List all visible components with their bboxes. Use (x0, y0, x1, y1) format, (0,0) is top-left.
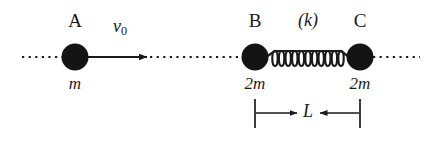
dimension-label: L (298, 102, 318, 120)
body-B-name-label: B (249, 11, 262, 30)
body-C-ball (347, 44, 374, 71)
physics-diagram: A B C m 2m 2m v0 (k) L (0, 0, 442, 141)
spring-helix (272, 51, 343, 66)
body-A-name-label: A (68, 11, 82, 30)
body-A-mass-label: m (69, 75, 81, 92)
spring-coil (266, 51, 349, 66)
velocity-symbol: v (113, 16, 121, 36)
body-C-name-label: C (354, 11, 367, 30)
diagram-canvas (0, 0, 442, 141)
spring-constant-label: (k) (298, 11, 318, 29)
body-A-ball (62, 44, 89, 71)
velocity-label: v0 (113, 17, 127, 38)
body-C-mass-label: 2m (350, 75, 371, 92)
body-B-mass-label: 2m (245, 75, 266, 92)
body-B-ball (242, 44, 269, 71)
velocity-subscript: 0 (121, 24, 127, 38)
